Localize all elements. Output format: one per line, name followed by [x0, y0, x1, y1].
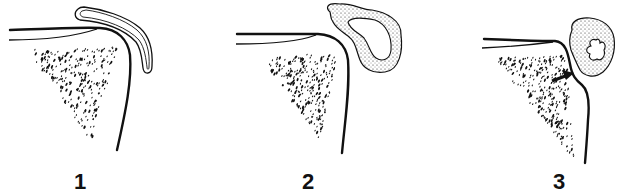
- stipple-dot: [312, 113, 314, 115]
- stipple-dot: [541, 63, 543, 65]
- stipple-dot: [316, 67, 318, 69]
- stipple-dot: [104, 80, 107, 84]
- stipple-dot: [556, 100, 558, 102]
- stipple-dot: [316, 72, 318, 74]
- stipple-dot: [507, 69, 509, 71]
- stipple-dot: [555, 130, 557, 132]
- bone-outline-3: [484, 39, 589, 163]
- stipple-dot: [328, 72, 330, 74]
- stipple-dot: [511, 68, 513, 70]
- stipple-dot: [91, 96, 93, 98]
- stipple-dot: [559, 90, 561, 92]
- stipple-dot: [285, 72, 287, 74]
- stipple-dot: [304, 69, 306, 71]
- stipple-dot: [570, 148, 573, 152]
- stipple-dot: [91, 63, 93, 65]
- stipple-dot: [276, 65, 278, 67]
- stipple-dot: [96, 68, 98, 70]
- stipple-dot: [312, 89, 314, 91]
- stipple-dot: [56, 77, 58, 79]
- stipple-dot: [554, 109, 556, 111]
- stipple-dot: [84, 85, 86, 87]
- stipple-dot: [327, 95, 329, 97]
- stipple-dot: [107, 61, 109, 63]
- stipple-dot: [41, 65, 43, 67]
- stipple-dot: [551, 87, 553, 89]
- stipple-dot: [532, 57, 534, 59]
- stipple-dot: [89, 104, 91, 106]
- stipple-dot: [315, 63, 317, 65]
- stipple-dot: [111, 53, 113, 55]
- stipple-dot: [542, 102, 544, 104]
- stipple-dot: [294, 60, 296, 62]
- stipple-dot: [293, 77, 295, 79]
- stipple-dot: [548, 103, 550, 105]
- stipple-dot: [323, 77, 325, 79]
- stipple-dot: [300, 83, 302, 85]
- stipple-dot: [87, 119, 89, 121]
- stipple-dot: [54, 54, 56, 56]
- stipple-dot: [326, 57, 329, 61]
- stipple-dot: [571, 144, 573, 146]
- stipple-dot: [43, 70, 45, 72]
- stipple-dot: [113, 56, 115, 58]
- stipple-dot: [558, 113, 560, 115]
- stipple-dot: [61, 75, 63, 77]
- stipple-dot: [303, 113, 305, 115]
- stipple-dot: [74, 73, 77, 77]
- stipple-dot: [69, 55, 73, 59]
- stipple-dot: [101, 59, 105, 63]
- stipple-dot: [65, 77, 67, 79]
- stipple-dot: [98, 82, 100, 84]
- stipple-dot: [561, 143, 563, 145]
- stipple-dot: [83, 112, 85, 114]
- stipple-dot: [307, 89, 309, 91]
- stipple-dot: [68, 52, 70, 54]
- stipple-dot: [539, 86, 541, 88]
- stipple-dot: [80, 64, 82, 66]
- stipple-dot: [87, 75, 89, 77]
- stipple-dot: [70, 98, 72, 100]
- stipple-dot: [553, 82, 555, 84]
- stipple-dot: [98, 106, 100, 108]
- stipple-dot: [314, 95, 316, 97]
- stipple-dot: [94, 61, 96, 63]
- stipple-dot: [532, 75, 534, 77]
- stipple-dot: [520, 84, 522, 86]
- stipple-dot: [498, 61, 500, 63]
- stipple-dot: [511, 72, 515, 76]
- stipple-dot: [86, 134, 88, 136]
- stipple-dot: [41, 52, 45, 56]
- stipple-dot: [543, 59, 546, 63]
- stipple-dot: [317, 79, 320, 83]
- stipple-dot: [321, 83, 323, 85]
- stipple-dot: [530, 74, 532, 76]
- stipple-dot: [77, 60, 79, 62]
- stipple-dot: [543, 91, 545, 93]
- stipple-dot: [547, 122, 549, 124]
- stipple-dot: [321, 114, 323, 116]
- stipple-dot: [543, 108, 545, 110]
- stipple-dot: [543, 78, 546, 82]
- panel-2: [236, 4, 402, 153]
- stipple-dot: [544, 86, 546, 88]
- stipple-dot: [328, 82, 330, 84]
- stipple-dot: [318, 104, 320, 106]
- stipple-dot: [86, 62, 88, 64]
- stipple-dot: [531, 59, 533, 61]
- stipple-dot: [74, 116, 76, 118]
- stipple-dot: [306, 65, 308, 67]
- stipple-dot: [320, 56, 323, 60]
- stipple-dot: [65, 82, 68, 86]
- stipple-dot: [309, 81, 311, 83]
- stipple-dot: [528, 85, 530, 87]
- stipple-dot: [106, 55, 108, 57]
- stipple-dot: [559, 101, 561, 103]
- stipple-dot: [319, 102, 321, 104]
- stipple-dot: [507, 56, 510, 60]
- stipple-dot: [314, 61, 316, 63]
- stipple-dot: [296, 78, 299, 82]
- stipple-dot: [73, 49, 77, 53]
- stipple-dot: [93, 83, 95, 85]
- stipple-dot: [309, 57, 311, 59]
